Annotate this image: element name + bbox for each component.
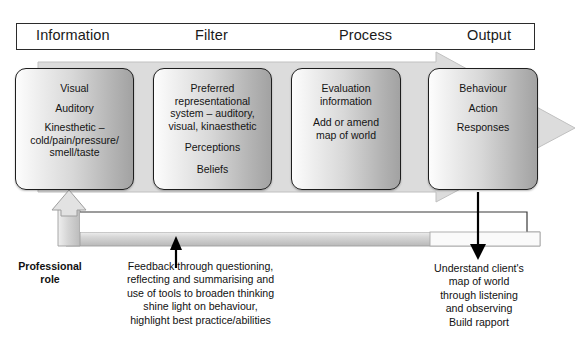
stage-line: Auditory [16,102,133,115]
diagram-canvas: Information Filter Process Output Visual… [0,0,575,345]
phase-label-output: Output [467,27,511,43]
stage-line: Behaviour [429,82,537,95]
feedback-loop-inner-notch [80,212,527,232]
loop-tail-strip [430,232,540,246]
stage-line: Add or amend map of world [292,116,400,141]
phase-label-process: Process [339,27,392,43]
stage-box-process: Evaluation information Add or amend map … [291,68,401,190]
caption-professional-role: Professional role [8,260,92,287]
phase-label-information: Information [36,27,110,43]
stage-box-filter: Preferred representational system – audi… [153,68,272,190]
stage-line: Responses [429,121,537,134]
phase-label-filter: Filter [195,27,228,43]
stage-box-output: Behaviour Action Responses [428,68,538,190]
caption-feedback: Feedback through questioning, reflecting… [88,260,313,327]
stage-line: Action [429,102,537,115]
stage-line: Perceptions [154,141,271,154]
stage-line: Evaluation information [292,82,400,107]
stage-line: Preferred representational system – audi… [154,82,271,132]
stage-line: Visual [16,82,133,95]
caption-understand-client: Understand client's map of world through… [404,262,554,329]
stage-box-information: Visual Auditory Kinesthetic – cold/pain/… [15,68,134,190]
stage-line: Beliefs [154,163,271,176]
phase-header-bar: Information Filter Process Output [16,23,535,50]
stage-line: Kinesthetic – cold/pain/pressure/ smell/… [16,121,133,159]
